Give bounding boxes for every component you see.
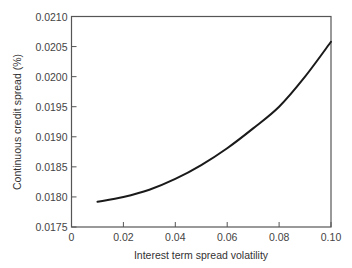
x-tick-label: 0.02	[113, 231, 134, 243]
y-tick-label: 0.0195	[35, 101, 67, 113]
x-tick-label: 0	[69, 231, 75, 243]
series-line	[97, 42, 331, 202]
x-axis-title: Interest term spread volatility	[134, 249, 269, 261]
y-tick-label: 0.0175	[35, 221, 67, 233]
x-tick-label: 0.10	[321, 231, 342, 243]
x-tick-label: 0.06	[217, 231, 238, 243]
x-tick-label: 0.04	[165, 231, 186, 243]
y-tick-label: 0.0205	[35, 41, 67, 53]
y-axis-title: Continuous credit spread (%)	[11, 54, 23, 190]
y-tick-label: 0.0190	[35, 131, 67, 143]
y-tick-label: 0.0200	[35, 71, 67, 83]
y-tick-label: 0.0180	[35, 191, 67, 203]
y-axis-ticks: 0.01750.01800.01850.01900.01950.02000.02…	[35, 11, 76, 234]
x-axis-ticks: 00.020.040.060.080.10	[69, 222, 342, 243]
plot-frame	[72, 17, 332, 228]
y-tick-label: 0.0210	[35, 11, 67, 23]
y-tick-label: 0.0185	[35, 161, 67, 173]
x-tick-label: 0.08	[269, 231, 290, 243]
line-chart: 0.01750.01800.01850.01900.01950.02000.02…	[0, 0, 352, 268]
